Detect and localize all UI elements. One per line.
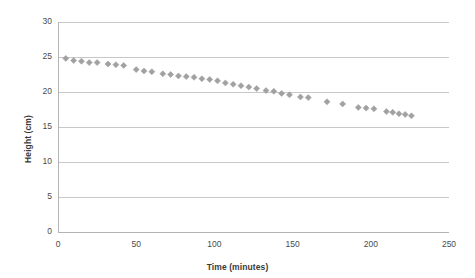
data-point-marker [199,76,205,82]
y-tick-label: 30 [24,16,52,26]
data-point-marker [71,58,77,64]
data-point-marker [408,113,414,119]
data-point-marker [271,88,277,94]
x-tick-label: 250 [429,239,469,249]
scatter-plot [0,0,475,278]
data-point-marker [191,74,197,80]
data-point-marker [355,104,361,110]
x-tick-label: 200 [351,239,391,249]
data-point-marker [149,69,155,75]
data-point-marker [246,84,252,90]
data-point-marker [279,90,285,96]
y-tick-label: 10 [24,156,52,166]
data-point-marker [371,106,377,112]
data-point-marker [207,76,213,82]
y-tick-label: 0 [24,226,52,236]
data-point-marker [215,78,221,84]
data-point-marker [94,60,100,66]
data-point-marker [383,109,389,115]
data-point-marker [63,55,69,61]
y-tick-label: 5 [24,191,52,201]
data-point-marker [363,105,369,111]
data-point-marker [175,73,181,79]
data-point-marker [230,81,236,87]
y-tick-label: 20 [24,86,52,96]
data-point-marker [254,86,260,92]
x-tick-label: 0 [38,239,78,249]
y-tick-label: 25 [24,51,52,61]
data-point-marker [238,83,244,89]
data-point-marker [286,92,292,98]
data-point-marker [160,71,166,77]
x-tick-label: 100 [194,239,234,249]
x-tick-label: 50 [116,239,156,249]
data-point-marker [305,95,311,101]
x-tick-label: 150 [273,239,313,249]
data-point-marker [183,74,189,80]
data-point-marker [86,60,92,66]
data-point-marker [297,94,303,100]
chart-container: Height (cm) Time (minutes) 3025201510500… [0,0,475,278]
data-point-marker [121,62,127,68]
data-point-marker [78,58,84,64]
y-tick-label: 15 [24,121,52,131]
data-point-marker [324,99,330,105]
data-point-marker [133,67,139,73]
data-point-marker [402,111,408,117]
data-point-marker [105,61,111,67]
data-point-marker [113,62,119,68]
data-point-marker [263,88,269,94]
data-point-marker [168,72,174,78]
data-point-marker [340,101,346,107]
data-point-marker [141,68,147,74]
data-point-marker [390,109,396,115]
data-point-marker [396,111,402,117]
data-point-marker [222,80,228,86]
